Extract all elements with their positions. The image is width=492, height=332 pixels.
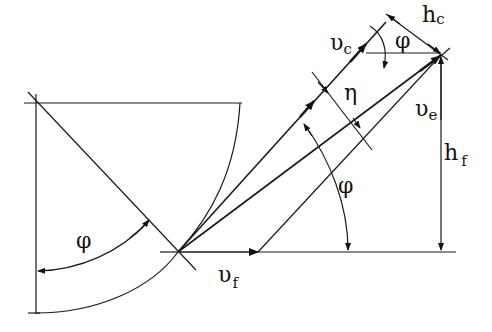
cutting-velocity-arrow-mid — [300, 101, 314, 117]
phi-left-angle-arc — [38, 222, 148, 271]
vc-label: υc — [330, 30, 352, 58]
radial-diagonal-line — [28, 92, 196, 270]
phi-left-label: φ — [76, 228, 91, 253]
eta-perpendicular-line — [312, 72, 372, 150]
phi-left-angle-arc-start — [130, 220, 149, 238]
hc-arrow-1 — [388, 15, 400, 24]
hc-label: hc — [422, 2, 445, 28]
velocity-diagram: υc φ hc η υe hf φ φ υf — [0, 0, 492, 332]
hf-label: hf — [444, 140, 468, 170]
phi-mid-label: φ — [338, 173, 353, 198]
cutter-arc-lower — [36, 252, 178, 313]
ve-label: υe — [415, 96, 437, 124]
hc-arrow-2 — [428, 44, 440, 53]
vf-label: υf — [218, 262, 239, 292]
phi-mid-arrow-start — [304, 124, 312, 136]
phi-top-angle-arc — [370, 26, 385, 68]
effective-velocity-vector — [178, 55, 441, 252]
eta-label: η — [344, 80, 357, 105]
cutting-velocity-arrow-head — [350, 44, 366, 62]
effective-velocity-arrow-head — [420, 56, 440, 71]
phi-top-label: φ — [395, 28, 410, 53]
